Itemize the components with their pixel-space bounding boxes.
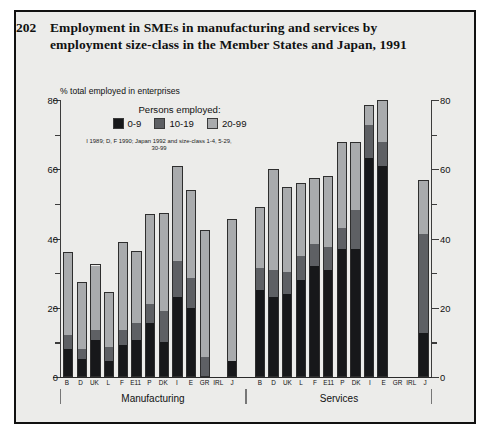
bar-segment-10-19 [119, 330, 127, 345]
bar-services-GR[interactable] [389, 100, 403, 377]
bar-segment-20-99 [297, 184, 305, 256]
stacked-bar [77, 282, 87, 377]
stacked-bar [159, 213, 169, 377]
bar-services-E[interactable] [376, 100, 390, 377]
bar-services-J[interactable] [417, 100, 431, 377]
y-tick-right-80 [432, 100, 439, 101]
bar-segment-0-9 [160, 342, 168, 376]
bar-segment-20-99 [64, 253, 72, 335]
bar-segment-20-99 [201, 231, 209, 357]
x-label-services-UK: UK [280, 379, 294, 386]
bar-manufacturing-L[interactable] [102, 100, 116, 377]
bar-segment-0-9 [338, 249, 346, 376]
x-label-services-L: L [294, 379, 308, 386]
bar-segment-20-99 [173, 167, 181, 261]
bar-segment-10-19 [146, 304, 154, 323]
stacked-bar [255, 207, 265, 377]
title-number: 202 [16, 20, 50, 37]
bar-segment-10-19 [201, 357, 209, 376]
x-label-services-I: I [363, 379, 377, 386]
bar-segment-10-19 [132, 323, 140, 340]
bar-services-F[interactable] [308, 100, 322, 377]
bar-segment-10-19 [297, 256, 305, 280]
bar-segment-20-99 [269, 170, 277, 269]
bar-services-DK[interactable] [349, 100, 363, 377]
x-label-manufacturing-F: F [115, 379, 129, 386]
bar-segment-10-19 [283, 272, 291, 294]
bar-manufacturing-J[interactable] [225, 100, 239, 377]
bar-segment-20-99 [256, 208, 264, 268]
x-label-manufacturing-I: I [170, 379, 184, 386]
y-tick-right-60 [432, 169, 439, 170]
x-label-manufacturing-E: E [184, 379, 198, 386]
bar-segment-20-99 [105, 293, 113, 347]
stacked-bar [200, 230, 210, 377]
bar-services-D[interactable] [267, 100, 281, 377]
bar-services-B[interactable] [253, 100, 267, 377]
y-tick-right-40 [432, 239, 439, 240]
stacked-bar [63, 252, 73, 377]
y-axis-label-left-60: 60 [32, 164, 58, 175]
bar-segment-0-9 [78, 359, 86, 376]
bar-services-P[interactable] [335, 100, 349, 377]
bar-segment-0-9 [365, 158, 373, 376]
bar-services-L[interactable] [294, 100, 308, 377]
bar-segment-20-99 [351, 143, 359, 210]
group-separator [246, 389, 247, 404]
y-tick-right-50 [432, 204, 437, 205]
bar-segment-20-99 [160, 214, 168, 311]
x-label-manufacturing-J: J [225, 379, 239, 386]
stacked-bar [296, 183, 306, 377]
bar-services-IRL[interactable] [403, 100, 417, 377]
bar-segment-10-19 [310, 244, 318, 266]
bar-manufacturing-UK[interactable] [89, 100, 103, 377]
bar-services-UK[interactable] [280, 100, 294, 377]
bar-manufacturing-B[interactable] [61, 100, 75, 377]
bar-segment-0-9 [64, 349, 72, 376]
bar-segment-0-9 [173, 297, 181, 376]
bar-manufacturing-D[interactable] [75, 100, 89, 377]
stacked-bar [282, 187, 292, 377]
bar-segment-10-19 [78, 349, 86, 359]
bar-segment-20-99 [78, 283, 86, 349]
bar-segment-0-9 [269, 297, 277, 376]
bar-manufacturing-GR[interactable] [198, 100, 212, 377]
y-axis-caption: % total employed in enterprises [60, 86, 180, 96]
stacked-bar [364, 105, 374, 377]
bar-manufacturing-E[interactable] [184, 100, 198, 377]
bar-manufacturing-I[interactable] [171, 100, 185, 377]
plot-area: 002020404060608080 [60, 100, 432, 377]
bar-segment-10-19 [269, 270, 277, 297]
bar-segment-0-9 [228, 361, 236, 376]
stacked-bar [90, 264, 100, 377]
stacked-bar [350, 142, 360, 377]
bar-manufacturing-IRL[interactable] [212, 100, 226, 377]
x-label-manufacturing-L: L [101, 379, 115, 386]
bar-services-E11[interactable] [321, 100, 335, 377]
x-label-services-P: P [336, 379, 350, 386]
bar-segment-10-19 [173, 261, 181, 297]
bar-segment-20-99 [324, 177, 332, 247]
bar-manufacturing-E11[interactable] [130, 100, 144, 377]
bar-manufacturing-DK[interactable] [157, 100, 171, 377]
bar-services-I[interactable] [362, 100, 376, 377]
bar-segment-10-19 [256, 268, 264, 290]
y-tick-left-70 [55, 135, 60, 136]
stacked-bar [268, 169, 278, 377]
x-label-manufacturing-P: P [143, 379, 157, 386]
x-label-services-E: E [377, 379, 391, 386]
bar-segment-20-99 [365, 106, 373, 125]
x-label-services-IRL: IRL [404, 379, 418, 386]
stacked-bar [377, 100, 387, 377]
y-tick-right-20 [432, 308, 439, 309]
bar-segment-10-19 [324, 247, 332, 269]
x-label-services-B: B [253, 379, 267, 386]
bar-segment-10-19 [351, 210, 359, 249]
x-label-manufacturing-D: D [74, 379, 88, 386]
x-label-manufacturing-B: B [60, 379, 74, 386]
y-axis-label-left-20: 20 [32, 302, 58, 313]
x-label-services-J: J [418, 379, 432, 386]
y-tick-right-30 [432, 273, 437, 274]
bar-manufacturing-P[interactable] [143, 100, 157, 377]
bar-manufacturing-F[interactable] [116, 100, 130, 377]
